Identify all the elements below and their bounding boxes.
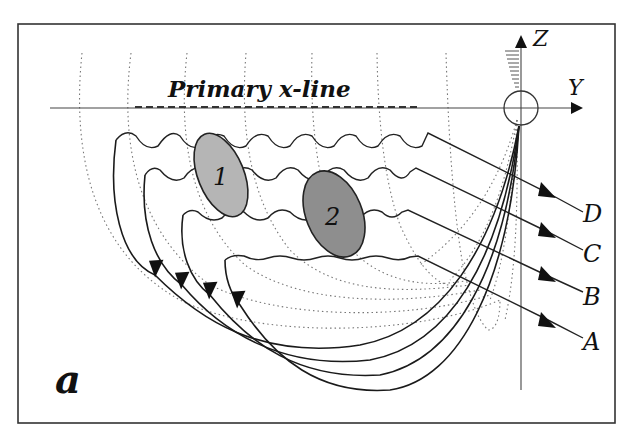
field-lines bbox=[114, 126, 583, 390]
region-2-label: 2 bbox=[324, 203, 340, 231]
y-axis-arrow-icon bbox=[571, 102, 583, 114]
exit-arrows bbox=[538, 182, 556, 328]
arrow-icon bbox=[538, 266, 556, 282]
arrow-icon bbox=[538, 312, 556, 328]
z-axis-label: Z bbox=[532, 26, 549, 51]
hatching bbox=[505, 51, 519, 87]
arrow-icon bbox=[538, 222, 556, 238]
arrow-icon bbox=[538, 182, 556, 198]
diagram-panel-a: Primary x-line Z Y D C B A 1 2 bbox=[0, 0, 625, 435]
loop-arrows bbox=[149, 256, 250, 309]
arrow-icon bbox=[203, 278, 222, 300]
field-line-label-a: A bbox=[581, 328, 600, 356]
field-line-label-d: D bbox=[582, 200, 602, 228]
field-line-label-b: B bbox=[582, 283, 601, 311]
panel-label: a bbox=[55, 355, 81, 402]
diagram-canvas: Primary x-line Z Y D C B A 1 2 bbox=[0, 0, 625, 435]
primary-x-line-label: Primary x-line bbox=[167, 75, 351, 102]
y-axis-label: Y bbox=[568, 75, 585, 100]
region-1-label: 1 bbox=[213, 163, 228, 191]
field-line-b bbox=[183, 210, 583, 292]
z-axis-arrow-icon bbox=[515, 35, 527, 48]
field-line-label-c: C bbox=[583, 240, 601, 268]
